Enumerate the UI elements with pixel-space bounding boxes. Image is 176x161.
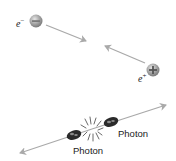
electron-motion-arrow	[46, 25, 86, 41]
electron-label: e−	[16, 17, 24, 29]
photon-blob-2-icon	[102, 115, 119, 128]
photon-label-2: Photon	[118, 128, 148, 139]
minus-sign-icon	[32, 20, 40, 22]
photon-blob-1-icon	[65, 128, 82, 141]
plus-sign-v-icon	[152, 66, 154, 74]
annihilation-diagram: e− e+	[0, 0, 176, 161]
positron-motion-arrow	[105, 46, 145, 63]
electron: e−	[16, 15, 43, 30]
photon-label-1: Photon	[73, 145, 103, 156]
photon-trajectory-up-arrow	[92, 105, 166, 129]
positron: e+	[138, 64, 160, 85]
positron-label: e+	[138, 72, 146, 84]
